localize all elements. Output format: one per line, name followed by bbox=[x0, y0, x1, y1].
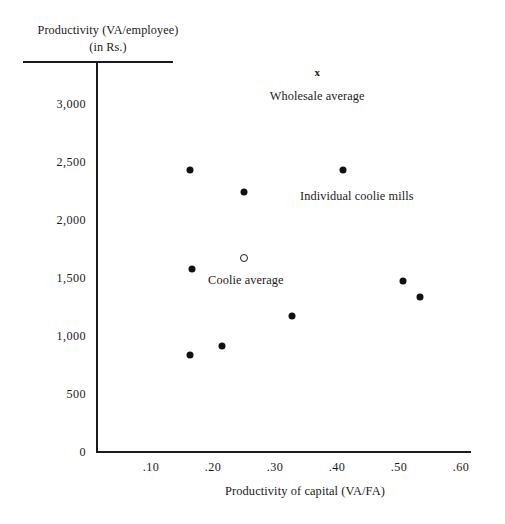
data-point bbox=[187, 352, 194, 359]
data-point bbox=[219, 342, 226, 349]
data-point bbox=[417, 294, 424, 301]
x-tick-label-040: .40 bbox=[317, 460, 357, 475]
y-axis-line bbox=[96, 61, 98, 453]
data-point bbox=[187, 167, 194, 174]
y-tick-label-1500: 1,500 bbox=[30, 271, 86, 286]
y-axis-label-line2: (in Rs.) bbox=[8, 39, 208, 56]
plot-annotation: Wholesale average bbox=[270, 89, 365, 104]
data-point bbox=[188, 265, 195, 272]
y-axis-label-line1: Productivity (VA/employee) bbox=[8, 22, 208, 39]
x-tick-label-030: .30 bbox=[255, 460, 295, 475]
y-axis-label: Productivity (VA/employee) (in Rs.) bbox=[8, 22, 208, 56]
y-tick-label-500: 500 bbox=[30, 387, 86, 402]
data-point bbox=[399, 278, 406, 285]
header-rule bbox=[23, 61, 173, 63]
y-tick-label-2000: 2,000 bbox=[30, 213, 86, 228]
x-axis-label: Productivity of capital (VA/FA) bbox=[140, 484, 470, 499]
x-tick-label-010: .10 bbox=[131, 460, 171, 475]
data-point-open-circle bbox=[240, 254, 248, 262]
x-tick-label-060: .60 bbox=[441, 460, 481, 475]
x-axis-line bbox=[96, 451, 471, 453]
y-tick-label-3000: 3,000 bbox=[30, 97, 86, 112]
y-tick-label-0: 0 bbox=[30, 445, 86, 460]
plot-annotation: Coolie average bbox=[208, 273, 284, 288]
data-point-cross: x bbox=[314, 66, 320, 77]
scatter-plot-figure: Productivity (VA/employee) (in Rs.) 0 50… bbox=[0, 0, 505, 524]
data-point bbox=[241, 189, 248, 196]
plot-annotation: Individual coolie mills bbox=[300, 189, 414, 204]
y-tick-label-2500: 2,500 bbox=[30, 155, 86, 170]
x-tick-label-020: .20 bbox=[193, 460, 233, 475]
data-point bbox=[288, 313, 295, 320]
x-tick-label-050: .50 bbox=[379, 460, 419, 475]
y-tick-label-1000: 1,000 bbox=[30, 329, 86, 344]
data-point bbox=[340, 167, 347, 174]
